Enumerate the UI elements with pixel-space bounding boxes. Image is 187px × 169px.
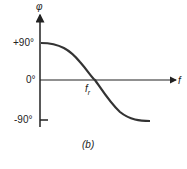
panel-label: (b) (82, 140, 94, 150)
phase-curve (41, 43, 150, 121)
resonant-frequency-label: fr (85, 84, 90, 98)
y-axis-label: φ (36, 2, 43, 12)
x-axis-label: f (178, 76, 181, 86)
tick-label-neg90: -90° (14, 115, 32, 125)
tick-label-pos90: +90° (13, 38, 34, 48)
tick-label-zero: 0° (26, 75, 36, 85)
